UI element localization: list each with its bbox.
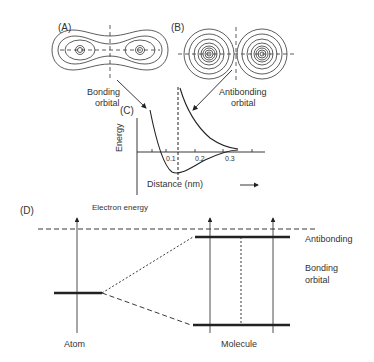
mo-energy-diagram [38, 218, 315, 333]
panel-d-label: (D) [20, 206, 34, 216]
molecule-label: Molecule [221, 339, 257, 349]
energy-axis-label: Energy [114, 123, 124, 152]
tick-0-2: 0.2 [195, 154, 205, 164]
panel-c-label: (C) [120, 106, 134, 116]
bonding-label-line1: Bonding [305, 263, 338, 273]
bonding-caption-line1: Bonding [87, 87, 120, 97]
antibonding-curve [180, 88, 238, 149]
atom-label: Atom [64, 339, 85, 349]
bonding-caption-line2: orbital [95, 98, 120, 108]
bonding-label-line2: orbital [305, 275, 330, 285]
panel-b-label: (B) [171, 23, 184, 33]
tick-0-3: 0.3 [225, 154, 235, 164]
antibonding-label: Antibonding [305, 234, 353, 244]
bonding-orbital-contours [52, 25, 168, 80]
antibonding-orbital-contours [178, 27, 296, 82]
electron-energy-label: Electron energy [92, 203, 148, 213]
antibonding-caption-line2: orbital [231, 98, 256, 108]
antibonding-caption-line1: Antibonding [219, 87, 267, 97]
distance-axis-label: Distance (nm) [147, 179, 203, 189]
panel-a-label: (A) [58, 23, 71, 33]
tick-0-1: 0.1 [166, 154, 176, 164]
bonding-pointer-arrow [117, 80, 146, 108]
